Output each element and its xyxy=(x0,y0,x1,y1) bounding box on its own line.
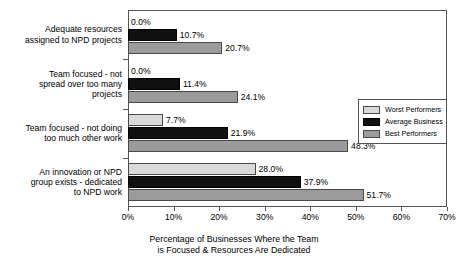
bar-average-business xyxy=(128,78,180,90)
x-axis-tick xyxy=(174,207,175,211)
category-label-line: too much other work xyxy=(0,133,122,143)
category-label-line: group exists - dedicated xyxy=(0,177,122,187)
category-label-line: Team focused - not doing xyxy=(0,123,122,133)
x-axis-tick xyxy=(265,207,266,211)
bar-best-performers xyxy=(128,42,222,54)
x-axis-tick-label: 20% xyxy=(211,212,228,222)
y-axis-tick xyxy=(123,158,128,159)
category-label-line: to NPD work xyxy=(0,187,122,197)
x-axis-tick xyxy=(401,207,402,211)
legend-item: Worst Performers xyxy=(363,104,442,115)
caption-line-2: is Focused & Resources Are Dedicated xyxy=(0,245,468,256)
legend-swatch xyxy=(363,118,380,126)
bar-value-label: 0.0% xyxy=(131,65,151,77)
caption-line-1: Percentage of Businesses Where the Team xyxy=(0,234,468,245)
bar-best-performers xyxy=(128,189,364,201)
legend-label: Worst Performers xyxy=(385,106,441,114)
category-label: Adequate resourcesassigned to NPD projec… xyxy=(0,24,122,44)
bar-best-performers xyxy=(128,140,348,152)
bar-value-label: 24.1% xyxy=(241,91,265,103)
bar-value-label: 7.7% xyxy=(166,114,186,126)
x-axis-tick-label: 0% xyxy=(122,212,134,222)
bar-average-business xyxy=(128,127,228,139)
bar-value-label: 28.0% xyxy=(259,163,283,175)
category-label: Team focused - notspread over too manypr… xyxy=(0,69,122,100)
bar-value-label: 37.9% xyxy=(304,176,328,188)
chart-legend: Worst PerformersAverage BusinessBest Per… xyxy=(358,99,447,144)
legend-item: Average Business xyxy=(363,116,442,127)
category-label: Team focused - not doingtoo much other w… xyxy=(0,123,122,143)
category-label-line: Adequate resources xyxy=(0,24,122,34)
category-label-line: spread over too many xyxy=(0,79,122,89)
y-axis-tick xyxy=(123,109,128,110)
x-axis-tick xyxy=(356,207,357,211)
bar-average-business xyxy=(128,29,177,41)
horizontal-bar-chart: Adequate resourcesassigned to NPD projec… xyxy=(0,0,468,269)
bar-value-label: 51.7% xyxy=(367,189,391,201)
bar-worst-performers xyxy=(128,114,163,126)
x-axis-tick xyxy=(219,207,220,211)
x-axis-tick-label: 50% xyxy=(347,212,364,222)
bar-value-label: 10.7% xyxy=(180,29,204,41)
bar-value-label: 21.9% xyxy=(231,127,255,139)
legend-label: Best Performers xyxy=(385,130,437,138)
legend-item: Best Performers xyxy=(363,128,442,139)
x-axis-tick-label: 60% xyxy=(393,212,410,222)
legend-label: Average Business xyxy=(385,118,443,126)
category-label-line: assigned to NPD projects xyxy=(0,35,122,45)
x-axis-tick xyxy=(447,207,448,211)
bar-value-label: 0.0% xyxy=(131,16,151,28)
legend-swatch xyxy=(363,130,380,138)
x-axis-tick-label: 40% xyxy=(302,212,319,222)
bar-value-label: 20.7% xyxy=(225,42,249,54)
bar-value-label: 11.4% xyxy=(183,78,207,90)
x-axis-tick-label: 30% xyxy=(256,212,273,222)
x-axis-tick-label: 70% xyxy=(438,212,455,222)
x-axis-tick xyxy=(310,207,311,211)
x-axis-tick xyxy=(128,207,129,211)
category-label: An innovation or NPDgroup exists - dedic… xyxy=(0,167,122,198)
legend-swatch xyxy=(363,106,380,114)
x-axis-caption: Percentage of Businesses Where the Team … xyxy=(0,234,468,256)
category-label-line: projects xyxy=(0,89,122,99)
category-label-line: An innovation or NPD xyxy=(0,167,122,177)
x-axis-tick-label: 10% xyxy=(165,212,182,222)
bar-average-business xyxy=(128,176,301,188)
bar-worst-performers xyxy=(128,163,256,175)
bar-best-performers xyxy=(128,91,238,103)
y-axis-tick xyxy=(123,59,128,60)
category-label-line: Team focused - not xyxy=(0,69,122,79)
